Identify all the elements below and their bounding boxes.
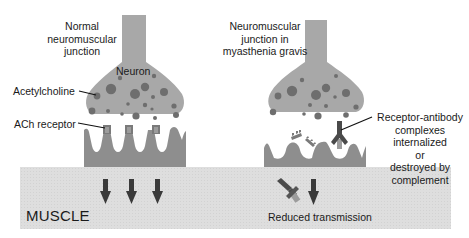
right-title-line-1: Neuromuscular <box>212 20 318 33</box>
left-title-line-3: junction <box>42 45 122 58</box>
annotation-line-1: Receptor-antibody <box>372 111 468 124</box>
ach-receptor-pointer <box>78 123 105 128</box>
ach-receptor-label: ACh receptor <box>14 118 76 131</box>
left-title-line-2: neuromuscular <box>42 33 122 46</box>
left-title-line-1: Normal <box>42 20 122 33</box>
annotation-line-3: internalized <box>372 136 468 149</box>
receptor-antibody-annotation: Receptor-antibody complexes internalized… <box>372 111 468 186</box>
muscle-label: MUSCLE <box>26 210 90 223</box>
neuron-label: Neuron <box>116 65 150 78</box>
left-panel-title: Normal neuromuscular junction <box>42 20 122 58</box>
annotation-line-6: complement <box>372 174 468 187</box>
annotation-line-5: destroyed by <box>372 161 468 174</box>
annotation-line-2: complexes <box>372 124 468 137</box>
complex-pointer <box>341 117 372 130</box>
annotation-line-4: or <box>372 149 468 162</box>
right-postsynaptic-membrane <box>264 142 366 167</box>
right-title-line-3: myasthenia gravis <box>212 45 318 58</box>
right-panel-title: Neuromuscular junction in myasthenia gra… <box>212 20 318 58</box>
left-postsynaptic-membrane <box>84 127 186 167</box>
reduced-transmission-label: Reduced transmission <box>268 211 372 224</box>
right-title-line-2: junction in <box>212 33 318 46</box>
acetylcholine-label: Acetylcholine <box>13 85 75 98</box>
receptor-antibody-complex-membrane <box>331 121 348 149</box>
